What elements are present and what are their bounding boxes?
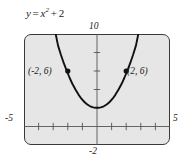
y-min-label: -2 (89, 146, 97, 156)
x-min-label: -5 (5, 113, 13, 123)
point-marker-left (65, 68, 70, 73)
point-label-right: (2, 6) (127, 66, 148, 76)
equation-constant: 2 (59, 7, 65, 19)
x-max-label: 5 (173, 113, 178, 123)
point-label-left: (-2, 6) (28, 66, 52, 76)
equation-equals: = (31, 7, 40, 19)
equation-label: y=x2+2 (26, 7, 64, 19)
equation-plus: + (49, 7, 58, 19)
graph-figure: y=x2+2 10 (0, 0, 193, 165)
plot-canvas (24, 34, 170, 145)
y-max-label: 10 (89, 21, 99, 31)
